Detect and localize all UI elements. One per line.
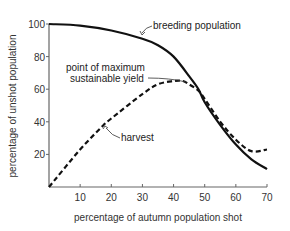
x-tick-label: 30 bbox=[137, 192, 149, 203]
x-tick-label: 40 bbox=[168, 192, 180, 203]
leader-harvest-arrow bbox=[103, 126, 108, 129]
y-tick-label: 20 bbox=[34, 149, 46, 160]
leader-breeding-arrow bbox=[140, 31, 145, 35]
population-harvest-chart: 10203040506070 20406080100 breeding popu… bbox=[0, 0, 290, 231]
y-tick-label: 100 bbox=[28, 19, 45, 30]
annotation-harvest: harvest bbox=[121, 132, 154, 143]
annotation-breeding-population: breeding population bbox=[153, 20, 241, 31]
x-tick-label: 20 bbox=[106, 192, 118, 203]
x-tick-label: 70 bbox=[261, 192, 273, 203]
y-tick-label: 60 bbox=[34, 84, 46, 95]
y-tick-label: 80 bbox=[34, 52, 46, 63]
x-tick-label: 10 bbox=[75, 192, 87, 203]
annotation-msy-line2: sustainable yield bbox=[70, 73, 144, 84]
annotation-msy-line1: point of maximum bbox=[66, 62, 145, 73]
x-tick-label: 50 bbox=[199, 192, 211, 203]
y-axis-ticks: 20406080100 bbox=[28, 19, 49, 160]
y-tick-label: 40 bbox=[34, 117, 46, 128]
harvest-line bbox=[49, 81, 267, 187]
x-axis-label: percentage of autumn population shot bbox=[74, 212, 242, 223]
axes bbox=[49, 24, 267, 187]
leader-breeding bbox=[142, 26, 152, 33]
leader-harvest bbox=[106, 128, 120, 138]
x-tick-label: 60 bbox=[230, 192, 242, 203]
y-axis-label: percentage of unshot population bbox=[7, 35, 18, 178]
